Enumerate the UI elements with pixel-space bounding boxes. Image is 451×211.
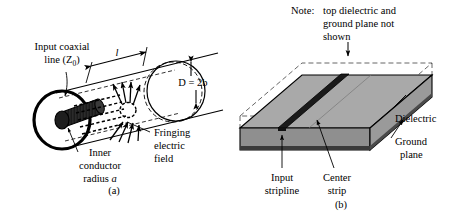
figure-root: l D = 2b Input coaxial line (Z0) Inner c… [0, 0, 451, 211]
inner-conductor-label-line1: Inner [89, 147, 112, 158]
fringing-label-line2: electric [154, 140, 185, 151]
input-coaxial-label-line1: Input coaxial [34, 41, 89, 52]
panel-a-caption: (a) [108, 185, 120, 197]
fringing-field-arrows-upper [113, 82, 140, 105]
center-strip-label-line2: strip [328, 185, 347, 196]
inner-conductor-label-line2: conductor [79, 160, 121, 171]
panel-b-drawing: Note: top dielectric and ground plane no… [223, 0, 451, 211]
ground-plane-label-line1: Ground [395, 136, 428, 147]
ground-plane-label-line2: plane [400, 149, 423, 160]
length-symbol-label: l [116, 47, 119, 58]
note-prefix-label: Note: [291, 5, 314, 16]
panel-b-caption: (b) [335, 199, 348, 211]
note-line1: top dielectric and [323, 5, 397, 16]
note-line2: ground plane not [323, 18, 394, 29]
input-stripline-label-line1: Input [271, 172, 293, 183]
fringing-label-line1: Fringing [154, 127, 191, 138]
panel-a-coaxial-line: l D = 2b Input coaxial line (Z0) Inner c… [0, 0, 228, 211]
panel-b-stripline: Note: top dielectric and ground plane no… [223, 0, 451, 211]
diameter-label: D = 2b [178, 77, 207, 88]
note-line3: shown [323, 31, 351, 42]
input-coaxial-label-line2: line (Z0) [44, 54, 80, 68]
fringing-label-line3: field [154, 153, 174, 164]
panel-a-drawing: l D = 2b Input coaxial line (Z0) Inner c… [0, 0, 228, 211]
inner-conductor-rod [55, 98, 106, 129]
inner-conductor-cross-section [55, 111, 69, 129]
center-strip-edge [278, 128, 286, 131]
center-strip-label-line1: Center [323, 172, 351, 183]
input-stripline-label-line2: stripline [265, 185, 300, 196]
inner-conductor-label-line3: radius a [83, 173, 117, 184]
ground-plane-band [240, 146, 370, 150]
